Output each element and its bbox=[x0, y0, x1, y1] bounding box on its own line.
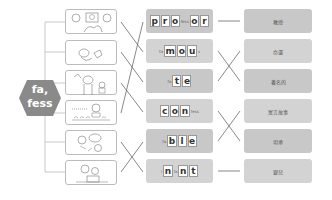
letter-tile[interactable]: n bbox=[178, 165, 187, 177]
word-box-confess[interactable]: c o n fess bbox=[146, 99, 213, 123]
word-box-famous[interactable]: fa m o u s bbox=[146, 39, 213, 63]
root-hexagon: fa, fess bbox=[19, 80, 61, 116]
letter-tile[interactable]: e bbox=[188, 135, 197, 147]
word-box-professor[interactable]: p r o fess o r bbox=[146, 9, 213, 33]
meaning-text: 嬰兒 bbox=[273, 168, 283, 175]
picture-box-6[interactable] bbox=[65, 160, 117, 185]
letter-tile[interactable]: o bbox=[171, 15, 180, 27]
suffix-fragment: s bbox=[198, 49, 200, 54]
root-fragment: fa bbox=[159, 49, 163, 54]
word-box-infant[interactable]: i n fa n t bbox=[146, 159, 213, 183]
fable-speech-picture-icon bbox=[66, 131, 118, 156]
letter-tile[interactable]: t bbox=[172, 75, 181, 87]
letter-tile[interactable]: t bbox=[189, 165, 198, 177]
meaning-box-3[interactable]: 著名的 bbox=[244, 69, 312, 93]
letter-tile[interactable]: c bbox=[160, 105, 169, 117]
root-fragment: fa bbox=[174, 169, 178, 174]
picture-box-4[interactable] bbox=[65, 100, 117, 125]
meaning-box-1[interactable]: 教授 bbox=[244, 9, 312, 33]
meaning-text: 坦承 bbox=[273, 138, 283, 145]
letter-tile[interactable]: r bbox=[200, 15, 209, 27]
teacher-students-picture-icon bbox=[66, 10, 118, 35]
picture-box-2[interactable] bbox=[65, 40, 117, 65]
root-fragment: fess bbox=[181, 19, 189, 24]
letter-tile[interactable]: l bbox=[178, 135, 187, 147]
picture-box-1[interactable] bbox=[65, 9, 117, 34]
letter-tile[interactable]: m bbox=[164, 45, 176, 57]
prefix-fragment: i bbox=[161, 169, 162, 174]
letter-tile[interactable]: b bbox=[167, 135, 176, 147]
letter-tile[interactable]: r bbox=[161, 15, 170, 27]
infant-picture-icon bbox=[66, 161, 118, 186]
meaning-text: 教授 bbox=[273, 18, 283, 25]
letter-tile[interactable]: e bbox=[182, 75, 191, 87]
word-box-fate[interactable]: fa t e bbox=[146, 69, 213, 93]
fortune-bird-picture-icon bbox=[66, 41, 118, 66]
letter-tile[interactable]: o bbox=[177, 45, 186, 57]
letter-tile[interactable]: u bbox=[187, 45, 196, 57]
root-fragment: fa bbox=[162, 139, 166, 144]
picture-box-5[interactable] bbox=[65, 130, 117, 155]
letter-tile[interactable]: o bbox=[190, 15, 199, 27]
confession-crowd-picture-icon bbox=[66, 101, 118, 126]
meaning-box-5[interactable]: 坦承 bbox=[244, 129, 312, 153]
famous-person-picture-icon bbox=[66, 71, 118, 96]
root-fragment: fa bbox=[168, 79, 172, 84]
meaning-text: 寓言故事 bbox=[268, 108, 288, 115]
meaning-box-2[interactable]: 命運 bbox=[244, 39, 312, 63]
meaning-text: 著名的 bbox=[271, 78, 286, 85]
meaning-box-6[interactable]: 嬰兒 bbox=[244, 159, 312, 183]
letter-tile[interactable]: n bbox=[180, 105, 189, 117]
root-label-line1: fa, bbox=[19, 83, 61, 97]
letter-tile[interactable]: n bbox=[163, 165, 172, 177]
letter-tile[interactable]: o bbox=[170, 105, 179, 117]
picture-box-3[interactable] bbox=[65, 70, 117, 95]
meaning-box-4[interactable]: 寓言故事 bbox=[244, 99, 312, 123]
letter-tile[interactable]: p bbox=[150, 15, 159, 27]
meaning-text: 命運 bbox=[273, 48, 283, 55]
word-box-fable[interactable]: fa b l e bbox=[146, 129, 213, 153]
root-fragment: fess bbox=[191, 109, 199, 114]
root-label-line2: fess bbox=[19, 97, 61, 111]
